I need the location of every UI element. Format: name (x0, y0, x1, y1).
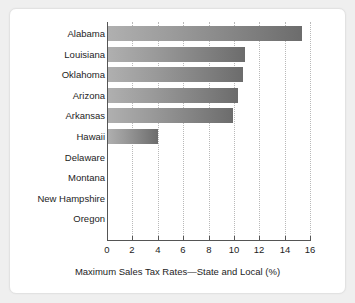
x-tick (259, 236, 260, 241)
x-axis-title: Maximum Sales Tax Rates—State and Local … (0, 266, 355, 277)
gridline (310, 22, 311, 240)
x-tick-label: 16 (295, 244, 325, 255)
x-tick (183, 236, 184, 241)
ylabel-delaware: Delaware (0, 153, 105, 163)
ylabel-montana: Montana (0, 173, 105, 183)
ylabel-arkansas: Arkansas (0, 111, 105, 121)
gridline (259, 22, 260, 240)
x-tick (107, 236, 108, 241)
x-tick (158, 236, 159, 241)
bar-alabama (107, 26, 302, 41)
ylabel-louisiana: Louisiana (0, 50, 105, 60)
bar-hawaii (107, 129, 158, 144)
ylabel-alabama: Alabama (0, 29, 105, 39)
ylabel-oregon: Oregon (0, 214, 105, 224)
ylabel-arizona: Arizona (0, 91, 105, 101)
ylabel-oklahoma: Oklahoma (0, 70, 105, 80)
ylabel-hawaii: Hawaii (0, 132, 105, 142)
bar-arizona (107, 88, 238, 103)
x-tick (209, 236, 210, 241)
x-tick (132, 236, 133, 241)
x-tick (234, 236, 235, 241)
bar-chart-plot: Alabama Louisiana Oklahoma Arizona Arkan… (0, 0, 355, 303)
ylabel-new-hampshire: New Hampshire (0, 194, 105, 204)
bar-arkansas (107, 108, 233, 123)
x-tick (285, 236, 286, 241)
bar-louisiana (107, 47, 245, 62)
gridline (285, 22, 286, 240)
y-axis-line (107, 22, 108, 241)
bar-oklahoma (107, 67, 243, 82)
x-tick (310, 236, 311, 241)
